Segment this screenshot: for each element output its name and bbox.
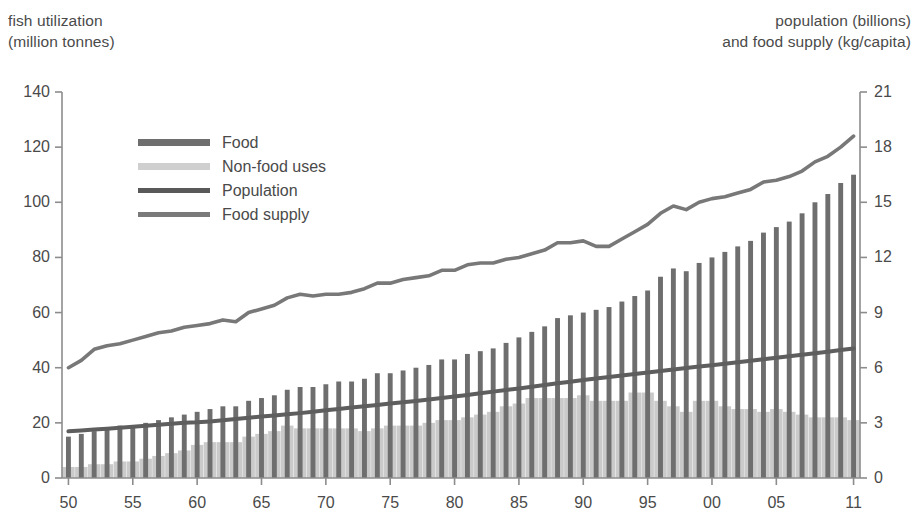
food-bar: [465, 354, 470, 478]
food-bar: [594, 310, 599, 478]
food-bar: [66, 437, 71, 478]
food-bar: [645, 291, 650, 478]
food-bar: [311, 387, 316, 478]
food-bar: [710, 257, 715, 478]
food-bar: [375, 373, 380, 478]
food-bar: [697, 263, 702, 478]
food-bar: [478, 351, 483, 478]
food-bar: [285, 390, 290, 478]
food-bar: [813, 202, 818, 478]
food-bar: [298, 387, 303, 478]
food-bar: [362, 379, 367, 478]
food-bar: [838, 183, 843, 478]
food-bar: [169, 417, 174, 478]
food-bar: [607, 307, 612, 478]
food-bar: [555, 318, 560, 478]
food-bar: [529, 332, 534, 478]
chart-plot-area: [0, 0, 919, 522]
food-bar: [632, 296, 637, 478]
food-bar: [349, 382, 354, 479]
food-bar: [143, 423, 148, 478]
food-bar: [414, 368, 419, 478]
food-bar: [800, 213, 805, 478]
food-bar: [105, 428, 110, 478]
food-bar: [516, 337, 521, 478]
food-bar: [491, 348, 496, 478]
food-bar: [323, 384, 328, 478]
food-bar: [426, 365, 431, 478]
food-bar: [825, 194, 830, 478]
food-bar: [272, 395, 277, 478]
food-bar: [220, 406, 225, 478]
food-bar: [117, 426, 122, 478]
food-bar: [504, 343, 509, 478]
food-bar: [658, 277, 663, 478]
food-bar: [246, 401, 251, 478]
food-bar: [851, 175, 856, 478]
food-bar: [619, 302, 624, 478]
food-bar: [92, 431, 97, 478]
food-bar: [401, 370, 406, 478]
food-bar: [581, 313, 586, 478]
food-bar: [388, 373, 393, 478]
food-bar: [542, 326, 547, 478]
food-bar: [671, 268, 676, 478]
food-bar: [156, 420, 161, 478]
food-bar: [774, 227, 779, 478]
food-bar: [439, 359, 444, 478]
food-bar: [684, 271, 689, 478]
food-bar: [452, 359, 457, 478]
food-bar: [259, 398, 264, 478]
food-bar: [336, 382, 341, 479]
food-bar: [787, 222, 792, 478]
food-bar: [761, 233, 766, 478]
food-bar: [130, 426, 135, 478]
chart-container: fish utilization (million tonnes) popula…: [0, 0, 919, 522]
food-bar: [79, 434, 84, 478]
food-bar: [568, 315, 573, 478]
